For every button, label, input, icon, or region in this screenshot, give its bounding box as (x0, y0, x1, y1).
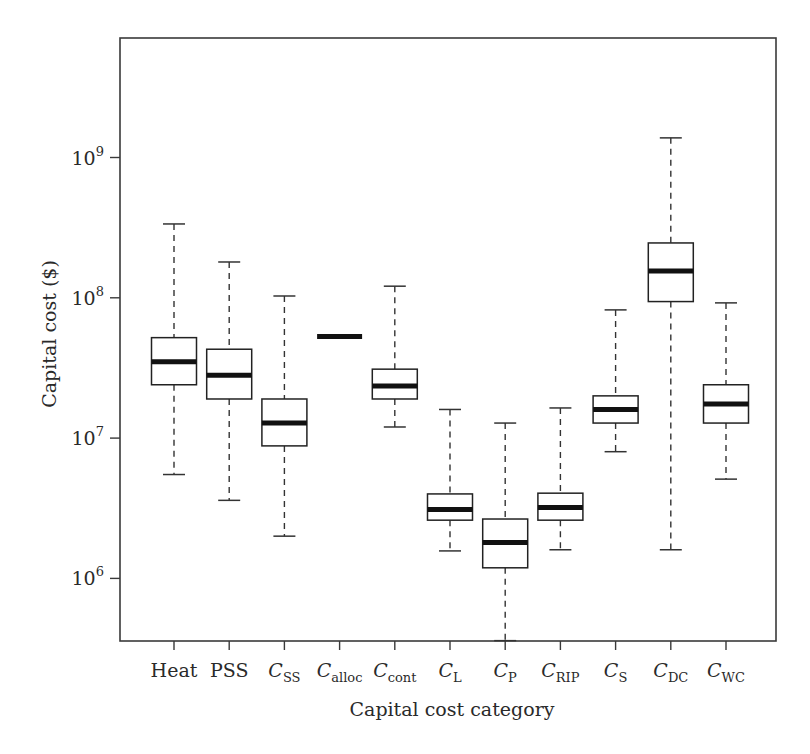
y-tick-label: 109 (72, 144, 104, 169)
x-tick-label-c-ss: CSS (268, 659, 300, 685)
boxes-layer (152, 138, 749, 641)
box-c-cont (372, 286, 417, 427)
y-tick-label: 106 (72, 564, 104, 589)
box-c-s (593, 310, 638, 452)
x-tick-label-c-s: CS (604, 659, 627, 685)
y-axis: 106107108109 (72, 144, 120, 590)
box-c-l (428, 409, 473, 550)
y-tick-label: 108 (72, 284, 104, 309)
box-c-wc (704, 303, 749, 479)
box-heat (152, 224, 197, 475)
x-tick-label-c-p: CP (494, 659, 518, 685)
box-c-ss (262, 296, 307, 536)
x-axis-title: Capital cost category (350, 698, 555, 720)
y-axis-title: Capital cost ($) (38, 260, 60, 408)
box-c-p (483, 423, 528, 641)
x-tick-label-heat: Heat (151, 659, 198, 681)
x-tick-label-pss: PSS (210, 659, 248, 681)
y-tick-label: 107 (72, 424, 104, 449)
box-c-rip (538, 408, 583, 550)
x-tick-label-c-wc: CWC (707, 659, 745, 685)
box-c-dc (648, 138, 693, 550)
x-tick-label-c-alloc: Calloc (317, 659, 363, 685)
x-tick-label-c-rip: CRIP (541, 659, 579, 685)
x-tick-label-c-l: CL (438, 659, 462, 685)
box-pss (207, 262, 252, 500)
x-axis: HeatPSSCSSCallocCcontCLCPCRIPCSCDCCWC (151, 641, 745, 685)
box-plot-chart: 106107108109 HeatPSSCSSCallocCcontCLCPCR… (0, 0, 810, 754)
x-tick-label-c-dc: CDC (653, 659, 688, 685)
x-tick-label-c-cont: Ccont (373, 659, 417, 685)
